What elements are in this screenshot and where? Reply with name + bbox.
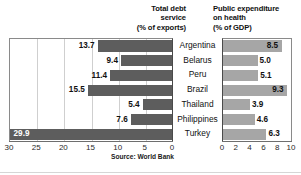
right-chart-plot-area: 8.55.05.19.33.94.66.3 xyxy=(222,38,292,141)
right-chart-bar-row: 9.3 xyxy=(223,83,291,98)
right-axis-tick-label: 8 xyxy=(275,143,279,152)
left-chart-bar-row: 7.6 xyxy=(10,113,172,128)
category-label: Philippines xyxy=(173,112,222,127)
category-label: Turkey xyxy=(173,126,222,141)
left-chart-bar xyxy=(98,40,172,51)
left-chart-bar-value: 5.4 xyxy=(128,99,139,110)
left-chart-bar xyxy=(143,99,172,110)
right-axis-tick-label: 0 xyxy=(220,143,224,152)
left-chart-bar-value: 11.4 xyxy=(92,70,107,81)
left-chart-bar-value: 29.9 xyxy=(14,128,30,139)
left-chart-bar-row: 11.4 xyxy=(10,68,172,83)
source-note: Source: World Bank xyxy=(88,153,174,160)
right-chart-bar-row: 5.1 xyxy=(223,68,291,83)
right-chart-bar xyxy=(223,114,255,125)
right-chart-bar xyxy=(223,129,266,140)
left-chart-bar xyxy=(10,129,172,140)
left-chart-bar-row: 5.4 xyxy=(10,98,172,113)
left-chart-bars: 13.79.411.415.55.47.629.9 xyxy=(10,39,172,141)
right-chart-bar xyxy=(223,70,258,81)
right-axis-tick-label: 10 xyxy=(287,143,296,152)
left-chart-plot-area: 13.79.411.415.55.47.629.9 xyxy=(9,38,173,141)
right-chart-title-line1: Public expenditure xyxy=(213,4,301,13)
left-axis-tick-label: 5 xyxy=(143,143,147,152)
right-chart-bars: 8.55.05.19.33.94.66.3 xyxy=(223,39,291,141)
right-chart-bar-row: 6.3 xyxy=(223,127,291,142)
left-chart-bar-row: 9.4 xyxy=(10,54,172,69)
left-chart-title-line1: Total debt xyxy=(110,4,186,13)
left-axis-tick-label: 0 xyxy=(170,143,174,152)
category-label: Thailand xyxy=(173,97,222,112)
right-chart-bar xyxy=(223,55,258,66)
right-chart-bar-value: 8.5 xyxy=(267,40,278,51)
bottom-divider xyxy=(0,172,301,173)
right-chart-bar-row: 8.5 xyxy=(223,39,291,54)
right-chart-bar-value: 5.0 xyxy=(260,55,271,66)
left-chart-bar-value: 9.4 xyxy=(107,55,118,66)
right-axis-tick-label: 6 xyxy=(261,143,265,152)
right-chart-bar-value: 9.3 xyxy=(272,84,283,95)
left-axis-tick-label: 30 xyxy=(5,143,14,152)
category-label: Argentina xyxy=(173,38,222,53)
category-label: Belarus xyxy=(173,53,222,68)
left-chart-bar xyxy=(131,114,172,125)
right-chart-bar-value: 4.6 xyxy=(257,114,268,125)
right-chart-x-axis: 0246810 xyxy=(222,141,292,154)
left-chart-bar-row: 13.7 xyxy=(10,39,172,54)
left-chart-bar-value: 15.5 xyxy=(69,84,85,95)
left-chart-title-line2: service xyxy=(110,13,186,22)
right-chart-bar-row: 5.0 xyxy=(223,54,291,69)
left-chart-bar-row: 29.9 xyxy=(10,127,172,142)
left-axis-tick-label: 25 xyxy=(32,143,41,152)
left-chart-bar xyxy=(110,70,172,81)
left-chart-bar xyxy=(121,55,172,66)
category-labels: ArgentinaBelarusPeruBrazilThailandPhilip… xyxy=(173,38,222,141)
left-axis-tick-label: 20 xyxy=(59,143,68,152)
right-chart-bar-value: 3.9 xyxy=(252,99,263,110)
right-chart-bar-row: 4.6 xyxy=(223,113,291,128)
right-chart-title: Public expenditure on health (% of GDP) xyxy=(213,4,301,32)
right-chart-bar-row: 3.9 xyxy=(223,98,291,113)
right-chart-bar-value: 5.1 xyxy=(260,70,271,81)
left-axis-tick-label: 10 xyxy=(113,143,122,152)
right-axis-tick-label: 4 xyxy=(247,143,251,152)
right-chart-bar-value: 6.3 xyxy=(268,128,279,139)
right-chart-bar xyxy=(223,99,250,110)
left-chart-title: Total debt service (% of exports) xyxy=(110,4,186,32)
left-chart-bar-value: 7.6 xyxy=(116,114,127,125)
right-chart-title-line3: (% of GDP) xyxy=(213,23,301,32)
right-chart-title-line2: on health xyxy=(213,13,301,22)
right-axis-tick-label: 2 xyxy=(234,143,238,152)
left-chart-bar-value: 13.7 xyxy=(79,40,95,51)
left-axis-tick-label: 15 xyxy=(86,143,95,152)
left-chart-title-line3: (% of exports) xyxy=(110,23,186,32)
left-chart-bar-row: 15.5 xyxy=(10,83,172,98)
left-chart-bar xyxy=(88,85,172,96)
category-label: Brazil xyxy=(173,82,222,97)
chart-figure: Total debt service (% of exports) Public… xyxy=(0,0,301,175)
category-label: Peru xyxy=(173,67,222,82)
